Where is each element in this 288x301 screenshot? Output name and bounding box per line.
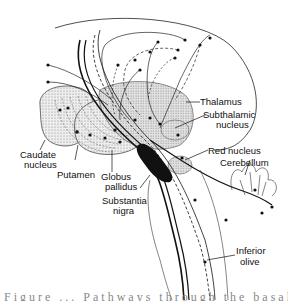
label-caudate-2: nucleus bbox=[24, 160, 57, 170]
label-inferior-1: Inferior bbox=[236, 246, 266, 256]
label-red-nucleus: Red nucleus bbox=[208, 146, 261, 156]
label-globus-2: pallidus bbox=[105, 182, 137, 192]
label-substantia-2: nigra bbox=[113, 206, 134, 216]
label-subthalamic-2: nucleus bbox=[216, 120, 249, 130]
subthalamic-shape bbox=[161, 120, 189, 140]
label-thalamus: Thalamus bbox=[200, 97, 242, 107]
substantia-nigra-shape bbox=[137, 144, 173, 183]
figure-caption: Figure ... Pathways through the basal ga… bbox=[4, 290, 288, 301]
label-putamen: Putamen bbox=[57, 170, 95, 180]
label-inferior-2: olive bbox=[240, 257, 260, 267]
cerebellum-folia bbox=[231, 165, 276, 197]
brainstem-outline bbox=[148, 180, 172, 300]
label-cerebellum: Cerebellum bbox=[220, 158, 269, 168]
